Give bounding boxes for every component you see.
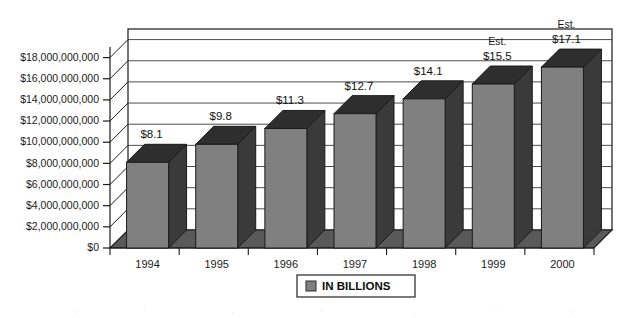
bar-value-label: $15.5 [483, 50, 512, 62]
bar [472, 66, 532, 248]
value-tick-label: $18,000,000,000 [20, 51, 99, 63]
value-axis-ticks: $0$2,000,000,000$4,000,000,000$6,000,000… [20, 51, 110, 253]
depth-connector [110, 40, 128, 58]
bar [541, 49, 601, 248]
category-tick-label: 1997 [343, 258, 367, 270]
depth-connector-group [110, 40, 128, 248]
value-tick-label: $2,000,000,000 [26, 220, 99, 232]
value-tick-label: $12,000,000,000 [20, 114, 99, 126]
value-tick-label: $8,000,000,000 [26, 157, 99, 169]
bar-note-label: Est. [557, 18, 575, 30]
legend-label-in-billions: IN BILLIONS [322, 280, 391, 292]
bar [127, 144, 187, 248]
category-tick-label: 1994 [135, 258, 159, 270]
value-tick-label: $4,000,000,000 [26, 199, 99, 211]
bar-front-face [127, 162, 169, 248]
bar-value-label: $11.3 [276, 94, 304, 106]
bar-value-label: $8.1 [140, 128, 162, 140]
bar-side-face [583, 49, 601, 248]
bar-value-label: $9.8 [210, 110, 232, 122]
value-tick-label: $14,000,000,000 [20, 93, 99, 105]
bar [334, 96, 394, 248]
category-tick-label: 1995 [204, 258, 228, 270]
depth-connector [110, 167, 128, 185]
category-axis-ticks: 1994199519961997199819992000 [110, 248, 594, 270]
bar-side-face [514, 66, 532, 248]
bar-front-face [541, 67, 583, 248]
depth-connector [110, 124, 128, 142]
bar [196, 126, 256, 248]
bar-chart-figure: $0$2,000,000,000$4,000,000,000$6,000,000… [0, 0, 628, 318]
value-tick-label: $6,000,000,000 [26, 178, 99, 190]
category-tick-label: 1998 [412, 258, 436, 270]
bar-side-face [238, 126, 256, 248]
value-tick-label: $10,000,000,000 [20, 135, 99, 147]
bar-note-label: Est. [488, 35, 506, 47]
bar-value-label: $17.1 [552, 33, 581, 45]
chart-legend: IN BILLIONS [297, 275, 415, 297]
depth-connector [110, 103, 128, 121]
depth-connector [110, 82, 128, 100]
depth-connector [110, 188, 128, 206]
bar-front-face [265, 128, 307, 248]
bar [403, 81, 463, 248]
depth-connector [110, 145, 128, 163]
bar-front-face [403, 99, 445, 248]
bar-front-face [472, 84, 514, 248]
bar-value-label: $12.7 [345, 80, 374, 92]
bar-side-face [376, 96, 394, 248]
category-tick-label: 1996 [274, 258, 298, 270]
bar-side-face [445, 81, 463, 248]
bar [265, 110, 325, 248]
bar-side-face [307, 110, 325, 248]
value-tick-label: $0 [87, 241, 99, 253]
bar-front-face [334, 114, 376, 248]
bar-value-label: $14.1 [414, 65, 443, 77]
category-tick-label: 2000 [550, 258, 574, 270]
value-tick-label: $16,000,000,000 [20, 72, 99, 84]
legend-swatch-in-billions [306, 281, 316, 291]
depth-connector [110, 209, 128, 227]
depth-connector [110, 61, 128, 79]
category-tick-label: 1999 [481, 258, 505, 270]
chart-canvas: $0$2,000,000,000$4,000,000,000$6,000,000… [0, 0, 628, 318]
bar-front-face [196, 144, 238, 248]
